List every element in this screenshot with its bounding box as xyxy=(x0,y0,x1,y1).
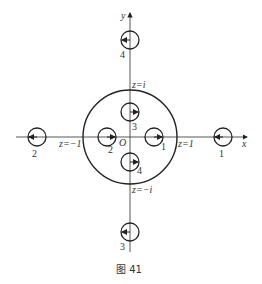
outer-loop-2: 2 xyxy=(28,128,46,159)
label-z-minus-i: z=−i xyxy=(131,184,152,195)
origin-label: O xyxy=(119,137,126,148)
inner-loop-1-label: 1 xyxy=(161,141,166,152)
outer-loop-1: 1 xyxy=(214,128,232,159)
inner-loop-4: 4 xyxy=(121,153,142,176)
outer-loop-3-label: 3 xyxy=(120,241,125,252)
outer-loop-2-label: 2 xyxy=(32,148,37,159)
inner-loop-4-label: 4 xyxy=(137,165,142,176)
inner-loop-2-label: 2 xyxy=(108,144,113,155)
label-z-minus-1: z=−1 xyxy=(58,138,81,149)
outer-loop-4-label: 4 xyxy=(120,49,125,60)
outer-loop-1-label: 1 xyxy=(219,148,224,159)
outer-loop-4: 4 xyxy=(120,31,139,60)
inner-loop-1: 1 xyxy=(145,128,166,152)
inner-loop-2: 2 xyxy=(98,128,116,155)
outer-loop-3: 3 xyxy=(120,223,139,252)
x-axis-label: x xyxy=(241,138,247,149)
y-axis-label: y xyxy=(120,10,126,21)
inner-loop-3-label: 3 xyxy=(132,121,137,132)
label-z-1: z=1 xyxy=(177,138,194,149)
figure-caption: 图 41 xyxy=(116,264,142,275)
diagram-canvas: x y O z=i z=−i z=−1 z=1 1 2 3 4 1 xyxy=(0,0,262,284)
label-z-i: z=i xyxy=(131,79,146,90)
